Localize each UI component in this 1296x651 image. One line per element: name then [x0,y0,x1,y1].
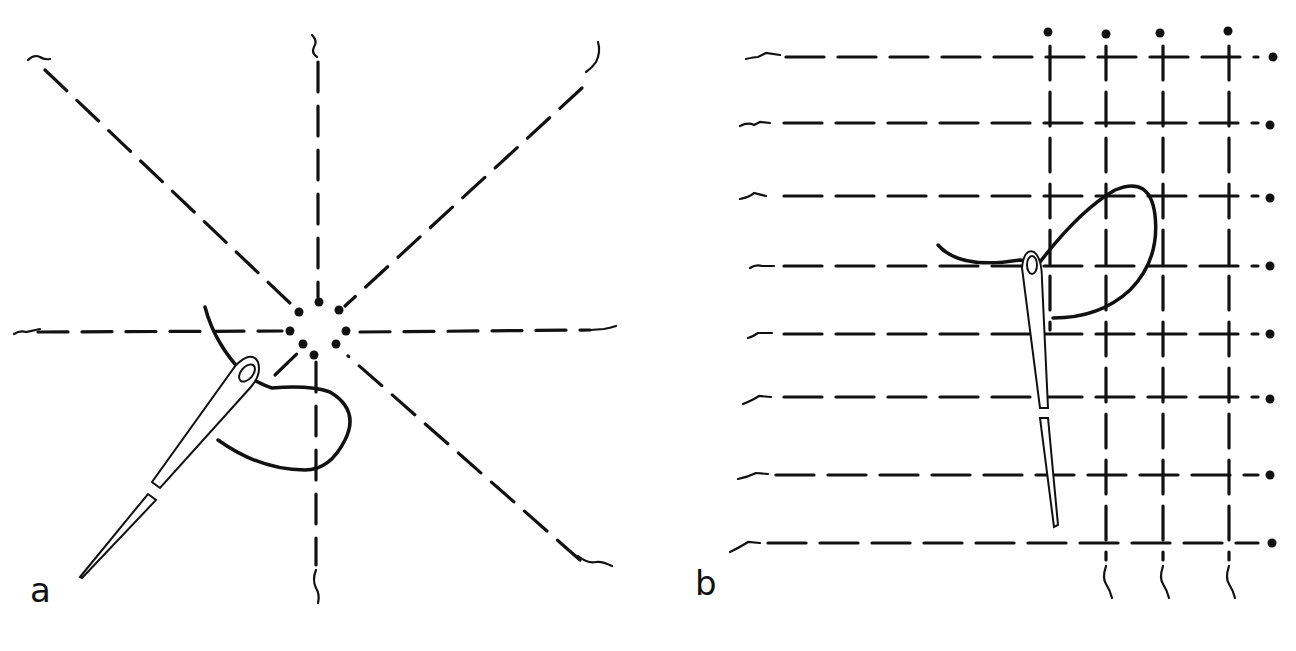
panel-label-a: a [30,573,51,607]
needle-icon [80,357,259,578]
panel-a-radial-stitch-diagram [0,0,648,651]
grid-threads-illustration [700,0,1296,651]
row-end-dots [1266,53,1278,548]
panel-b-grid-stitch-diagram [700,0,1296,651]
spoke-right [360,330,590,332]
needle-icon [1022,251,1058,527]
thread [938,186,1156,318]
spoke-top-left [45,70,292,305]
column-top-dots [1044,27,1233,39]
radial-threads-illustration [0,0,648,651]
panel-label-b: b [695,566,717,600]
spoke-bottom-left [275,350,301,375]
spoke-top-right [345,88,582,306]
center-dots [286,298,351,360]
spoke-bottom-right [348,356,580,560]
spoke-left [38,331,282,332]
